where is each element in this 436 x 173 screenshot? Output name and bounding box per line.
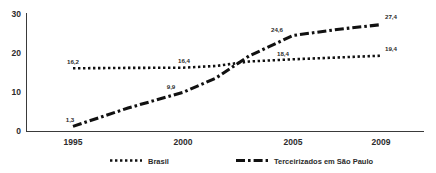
data-label-brasil-2005: 18,4 (277, 50, 290, 57)
chart-canvas: 30 20 10 0 1995 2000 2005 2009 16,2 16,4… (0, 0, 436, 173)
data-label-brasil-2009: 19,4 (385, 45, 398, 52)
x-tick-label-1995: 1995 (64, 137, 83, 147)
series-line-brasil (73, 56, 381, 69)
x-tick-label-2000: 2000 (174, 137, 193, 147)
data-label-terceirizados-1995: 1,3 (66, 116, 75, 123)
x-tick-label-2005: 2005 (284, 137, 303, 147)
y-axis-tick-labels: 30 20 10 0 (12, 9, 22, 136)
data-label-terceirizados-2000: 9,9 (167, 83, 176, 90)
line-chart: 30 20 10 0 1995 2000 2005 2009 16,2 16,4… (0, 0, 436, 173)
data-label-brasil-1995: 16,2 (67, 58, 80, 65)
legend-item-terceirizados[interactable]: Terceirizados em São Paulo (236, 157, 373, 166)
y-tick-label-20: 20 (12, 48, 22, 58)
x-axis-tick-labels: 1995 2000 2005 2009 (64, 137, 391, 147)
legend-label-brasil: Brasil (148, 157, 169, 166)
data-label-terceirizados-2005: 24,6 (271, 26, 284, 33)
y-tick-label-10: 10 (12, 87, 22, 97)
data-labels-brasil: 16,2 16,4 18,4 19,4 (67, 45, 398, 65)
chart-legend: Brasil Terceirizados em São Paulo (110, 157, 373, 166)
data-label-brasil-2000: 16,4 (178, 57, 191, 64)
x-tick-label-2009: 2009 (372, 137, 391, 147)
legend-label-terceirizados: Terceirizados em São Paulo (274, 157, 373, 166)
y-tick-label-0: 0 (16, 126, 21, 136)
legend-item-brasil[interactable]: Brasil (110, 157, 169, 166)
y-tick-label-30: 30 (12, 9, 22, 19)
data-label-terceirizados-2009: 27,4 (385, 13, 398, 20)
series-line-terceirizados (73, 25, 381, 127)
